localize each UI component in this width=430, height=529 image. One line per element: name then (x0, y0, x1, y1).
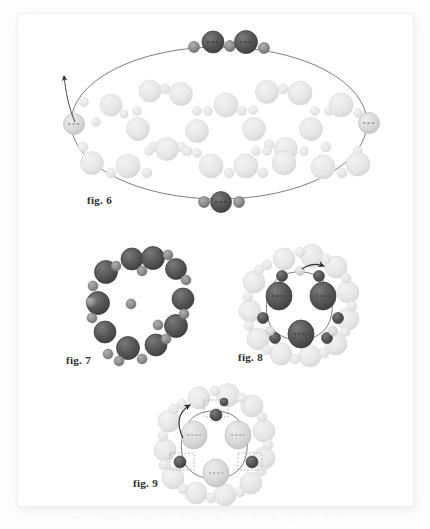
figure-fig8 (239, 245, 359, 368)
fig9-outer-ring (154, 384, 275, 507)
sphere-mid (234, 197, 245, 208)
figure-canvas (18, 14, 413, 506)
fig6-interior-spheres (78, 80, 370, 179)
screenshot-root: fig. 6 fig. 7 fig. 8 fig. 9 (0, 0, 430, 529)
caption-fig6: fig. 6 (87, 194, 112, 206)
scan-speckles (60, 512, 360, 524)
sphere-mid (259, 43, 270, 54)
caption-fig8: fig. 8 (238, 351, 263, 363)
sphere-mid (225, 41, 236, 52)
figure-fig7 (86, 247, 194, 367)
fig7-ring-spheres (86, 247, 194, 367)
document-page: fig. 6 fig. 7 fig. 8 fig. 9 (17, 13, 414, 507)
sphere-mid (189, 42, 200, 53)
figure-fig6 (64, 31, 380, 213)
caption-fig7: fig. 7 (66, 354, 91, 366)
fig6-perimeter-spheres (64, 31, 380, 213)
caption-fig9: fig. 9 (133, 477, 158, 489)
sphere-mid (199, 197, 210, 208)
figure-fig9 (154, 384, 275, 507)
fig8-outer-ring (239, 245, 359, 368)
fig8-inner-spheres (258, 267, 344, 349)
